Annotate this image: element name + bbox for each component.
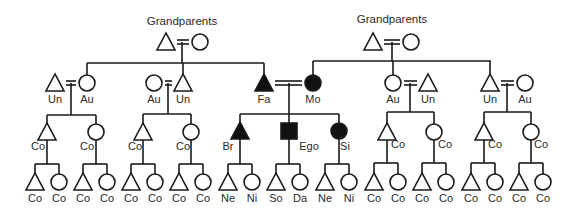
kinship-diagram: Grandparents Grandparents — [0, 0, 577, 211]
female-circle-icon — [192, 34, 208, 50]
kin-node-g2-3: Au — [146, 75, 162, 105]
female-circle-icon — [305, 75, 321, 91]
male-triangle-icon — [170, 173, 188, 190]
female-circle-icon — [403, 34, 419, 50]
kin-node-g4-20: Co — [487, 174, 503, 204]
kin-node-gp-l-f — [192, 34, 208, 50]
kin-label: Ni — [344, 192, 354, 204]
kin-label: Au — [386, 93, 399, 105]
kin-node-g4-16: Co — [390, 174, 406, 204]
kin-node-gp-r-m — [364, 33, 382, 50]
kin-node-g4-13: Ne — [316, 173, 334, 204]
male-triangle-icon — [255, 74, 273, 91]
female-circle-icon — [79, 75, 95, 91]
female-circle-icon — [487, 174, 503, 190]
kin-node-g4-4: Co — [99, 174, 115, 204]
male-triangle-icon — [413, 173, 431, 190]
kin-node-g4-3: Co — [74, 173, 92, 204]
female-circle-icon — [535, 174, 551, 190]
ego-square-icon — [281, 123, 297, 139]
female-circle-icon — [438, 174, 454, 190]
female-circle-icon — [517, 75, 533, 91]
kin-label: Au — [518, 93, 531, 105]
kin-node-g4-6: Co — [147, 174, 163, 204]
male-triangle-icon — [510, 173, 528, 190]
male-triangle-icon — [267, 173, 285, 190]
kin-node-g4-5: Co — [122, 173, 140, 204]
kin-node-g2-4: Un — [174, 74, 192, 105]
kin-label: Co — [28, 192, 42, 204]
male-triangle-icon — [462, 173, 480, 190]
female-circle-icon — [146, 75, 162, 91]
kin-node-g4-12: Da — [292, 174, 308, 204]
kin-node-g2-fa: Fa — [255, 74, 273, 105]
kin-node-g4-1: Co — [26, 173, 44, 204]
marriage-symbol — [177, 40, 189, 44]
kin-node-g3-4: Co — [176, 124, 199, 152]
kin-node-g3-br: Br — [223, 122, 250, 152]
kin-label: Co — [148, 192, 162, 204]
kin-label: Co — [128, 140, 142, 152]
female-circle-icon — [99, 174, 115, 190]
kin-label: Co — [438, 138, 452, 150]
kin-label: Da — [293, 192, 308, 204]
kin-label: Ne — [221, 192, 235, 204]
kin-node-g3-5: Co — [378, 123, 405, 150]
kin-node-g4-9: Ne — [219, 173, 237, 204]
kin-label: Un — [176, 93, 190, 105]
kin-label: Co — [488, 192, 502, 204]
descent-lines — [35, 42, 543, 174]
kin-node-g4-15: Co — [365, 173, 383, 204]
kin-label: Mo — [305, 93, 320, 105]
female-circle-icon — [341, 174, 357, 190]
kin-label: Co — [80, 140, 94, 152]
kin-node-g4-22: Co — [535, 174, 551, 204]
female-circle-icon — [195, 174, 211, 190]
grandparents-label-paternal: Grandparents — [147, 15, 218, 27]
kin-node-g4-18: Co — [438, 174, 454, 204]
female-circle-icon — [147, 174, 163, 190]
kin-label: Co — [536, 192, 550, 204]
kin-node-g2-2: Au — [79, 75, 95, 105]
kin-label: Co — [52, 192, 66, 204]
female-circle-icon — [183, 124, 199, 140]
kin-node-g3-ego: Ego — [281, 123, 319, 152]
kin-node-gp-r-f — [403, 34, 419, 50]
male-triangle-icon — [316, 173, 334, 190]
kin-label: Au — [80, 93, 93, 105]
kin-node-g3-1: Co — [31, 123, 56, 152]
kin-label: Un — [421, 93, 435, 105]
male-triangle-icon — [74, 173, 92, 190]
kin-node-g4-11: So — [267, 173, 285, 204]
grandparents-label-maternal: Grandparents — [357, 13, 428, 25]
female-circle-icon — [390, 174, 406, 190]
kin-label: Au — [147, 93, 160, 105]
kin-node-g4-2: Co — [51, 174, 67, 204]
kin-node-g3-3: Co — [128, 123, 152, 152]
male-triangle-icon — [231, 122, 249, 139]
kin-node-g3-8: Co — [523, 124, 548, 150]
kin-label: Ego — [299, 140, 319, 152]
female-circle-icon — [244, 174, 260, 190]
female-circle-icon — [88, 124, 104, 140]
kin-node-g2-1: Un — [46, 74, 64, 105]
kin-label: Ni — [247, 192, 257, 204]
kin-node-g4-10: Ni — [244, 174, 260, 204]
kin-label: Co — [534, 138, 548, 150]
male-triangle-icon — [219, 173, 237, 190]
female-circle-icon — [292, 174, 308, 190]
kin-label: Co — [31, 140, 45, 152]
male-triangle-icon — [26, 173, 44, 190]
male-triangle-icon — [174, 74, 192, 91]
male-triangle-icon — [481, 74, 499, 91]
kin-node-g3-si: Si — [331, 123, 350, 152]
male-triangle-icon — [157, 33, 175, 50]
kin-node-g4-21: Co — [510, 173, 528, 204]
kin-label: Si — [340, 140, 350, 152]
male-triangle-icon — [365, 173, 383, 190]
kin-label: Un — [48, 93, 62, 105]
kin-node-g3-7: Co — [475, 123, 502, 150]
female-circle-icon — [51, 174, 67, 190]
male-triangle-icon — [38, 123, 56, 140]
kin-node-g2-6: Un — [419, 74, 437, 105]
